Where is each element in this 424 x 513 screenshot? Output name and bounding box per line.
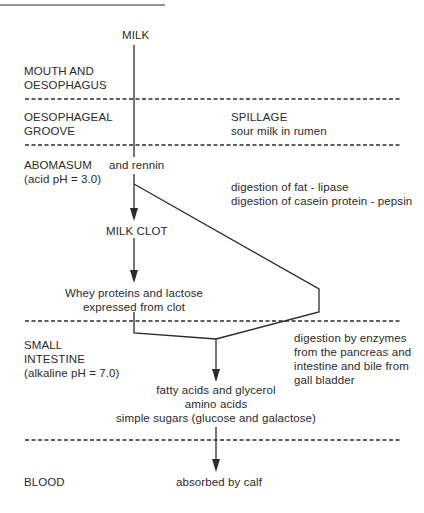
- zone-label-mouth-line2: OESOPHAGUS: [24, 78, 107, 92]
- absorbed-outcome: absorbed by calf: [176, 475, 262, 489]
- digestion-diagram: MILK MOUTH AND OESOPHAGUS OESOPHAGEAL GR…: [0, 0, 424, 513]
- arrow-to-blood-icon: [212, 459, 220, 472]
- zone-label-abomasum-line1: ABOMASUM: [24, 158, 92, 172]
- product-fatty-acids: fatty acids and glycerol: [106, 383, 326, 397]
- enzymes-note-line2: from the pancreas and: [294, 345, 411, 359]
- rennin-note: and rennin: [107, 158, 166, 172]
- whey-node-line1: Whey proteins and lactose: [64, 286, 204, 300]
- spillage-title: SPILLAGE: [231, 110, 287, 124]
- whey-join-path: [134, 312, 216, 339]
- zone-label-intestine-line2: INTESTINE: [24, 352, 85, 366]
- whey-node-line2: expressed from clot: [64, 300, 204, 314]
- arrow-to-milk-clot-icon: [130, 208, 138, 221]
- zone-label-abomasum-line2: (acid pH = 3.0): [24, 172, 101, 186]
- spillage-note: sour milk in rumen: [231, 124, 327, 138]
- pepsin-note: digestion of casein protein - pepsin: [231, 194, 412, 208]
- arrowheads: [130, 208, 220, 472]
- zone-label-intestine-line3: (alkaline pH = 7.0): [24, 366, 120, 380]
- lipase-note: digestion of fat - lipase: [231, 180, 349, 194]
- product-amino-acids: amino acids: [106, 397, 326, 411]
- arrow-to-whey-icon: [130, 270, 138, 283]
- arrow-to-products-icon: [212, 369, 220, 382]
- product-simple-sugars: simple sugars (glucose and galactose): [106, 411, 326, 425]
- enzymes-note-line1: digestion by enzymes: [294, 331, 407, 345]
- zone-label-mouth-line1: MOUTH AND: [24, 64, 94, 78]
- milk-clot-node: MILK CLOT: [106, 224, 168, 238]
- milk-label: MILK: [122, 28, 149, 42]
- zone-label-intestine-line1: SMALL: [24, 338, 62, 352]
- zone-label-groove-line1: OESOPHAGEAL: [24, 110, 113, 124]
- zone-label-blood: BLOOD: [24, 475, 65, 489]
- enzymes-note-line3: intestine and bile from: [294, 359, 409, 373]
- zone-label-groove-line2: GROOVE: [24, 124, 75, 138]
